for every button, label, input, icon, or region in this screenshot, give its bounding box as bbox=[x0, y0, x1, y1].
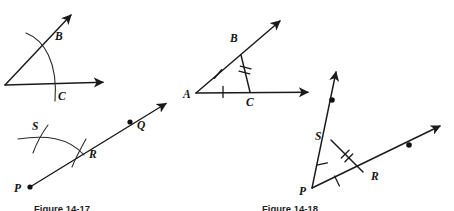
arc-from-p bbox=[18, 137, 84, 155]
point-dot-steep-ray bbox=[329, 97, 335, 103]
point-label-r: R bbox=[370, 170, 379, 182]
arc-crossing-at-r bbox=[72, 139, 86, 167]
figure-angle-arc-bc: B C bbox=[5, 15, 103, 102]
point-dot-p bbox=[27, 184, 32, 189]
point-label-p: P bbox=[14, 182, 22, 194]
diagonal-ray-a bbox=[196, 21, 280, 93]
tick-pr bbox=[335, 176, 340, 186]
point-label-b: B bbox=[229, 32, 238, 44]
point-label-q: Q bbox=[137, 119, 145, 131]
tick-ps bbox=[317, 163, 328, 165]
horizontal-ray-a bbox=[196, 92, 308, 93]
tick-ab bbox=[214, 70, 221, 78]
segment-sr bbox=[331, 140, 363, 172]
horizontal-ray bbox=[5, 82, 103, 85]
figure-triangle-abc: A B C bbox=[182, 21, 308, 108]
figure-ray-pqr-arcs: P Q R S bbox=[14, 104, 166, 195]
point-label-s: S bbox=[32, 120, 38, 132]
figure-caption-left: Figure 14-17 bbox=[34, 203, 90, 211]
point-label-p: P bbox=[299, 185, 307, 197]
figure-caption-right: Figure 14-18 bbox=[262, 203, 318, 211]
point-label-c: C bbox=[246, 96, 254, 108]
point-label-b: B bbox=[54, 30, 63, 42]
geometry-illustration: B C P Q R S bbox=[0, 0, 454, 211]
figure-plate: B C P Q R S bbox=[0, 0, 454, 211]
point-dot-q bbox=[127, 119, 132, 124]
construction-arc bbox=[26, 33, 55, 101]
point-label-c: C bbox=[58, 90, 66, 102]
point-label-r: R bbox=[88, 148, 97, 160]
point-dot-shallow-ray bbox=[406, 142, 412, 148]
figure-triangle-psr: P S R bbox=[299, 72, 440, 197]
ray-p-q bbox=[30, 104, 166, 188]
diagonal-ray bbox=[5, 15, 71, 85]
point-label-a: A bbox=[182, 88, 191, 100]
point-label-s: S bbox=[315, 130, 321, 142]
